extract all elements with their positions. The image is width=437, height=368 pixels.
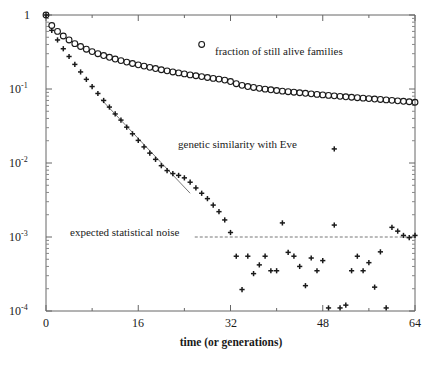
log-scatter-chart: 1 10-1 10-2 10-3 10-4 0 16 32 48 64 time… <box>0 0 437 368</box>
series-genetic-similarity <box>43 12 417 310</box>
legend-markers <box>199 42 337 152</box>
series-fraction-alive-families <box>43 12 418 105</box>
chart-canvas <box>0 0 437 368</box>
tick-marks <box>46 15 415 311</box>
reference-lines <box>101 100 415 237</box>
axes-frame <box>46 15 415 311</box>
